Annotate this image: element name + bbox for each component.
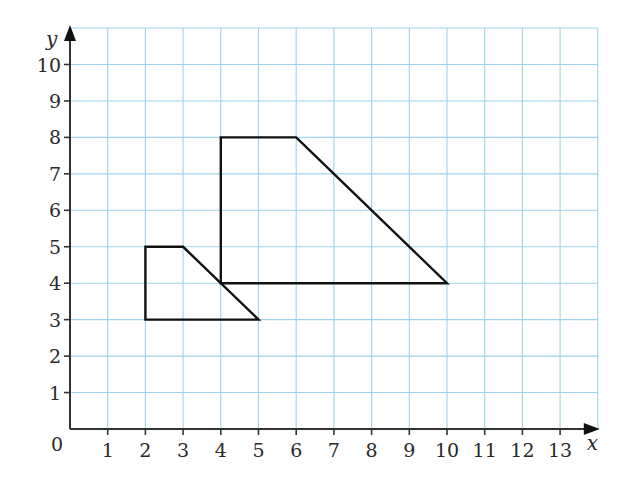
axes: [64, 25, 600, 435]
x-tick-label: 3: [177, 439, 189, 461]
x-tick-label: 9: [403, 439, 415, 461]
y-tick-label: 7: [49, 163, 61, 185]
y-tick-label: 4: [49, 272, 61, 294]
y-tick-label: 10: [37, 54, 61, 76]
coordinate-grid-diagram: 12345678910111213123456789100xy: [0, 0, 628, 487]
x-tick-label: 12: [510, 439, 534, 461]
y-tick-label: 1: [49, 382, 61, 404]
y-axis-label: y: [45, 27, 58, 51]
tick-labels: 12345678910111213123456789100xy: [37, 27, 598, 461]
y-tick-label: 8: [49, 126, 61, 148]
x-tick-label: 7: [328, 439, 340, 461]
y-tick-label: 6: [49, 199, 61, 221]
y-tick-label: 5: [49, 236, 61, 258]
y-tick-label: 3: [49, 309, 61, 331]
y-tick-label: 2: [49, 345, 61, 367]
x-tick-label: 13: [548, 439, 572, 461]
origin-label: 0: [51, 433, 63, 455]
x-axis-label: x: [587, 431, 598, 455]
x-tick-label: 10: [435, 439, 459, 461]
x-tick-label: 2: [139, 439, 151, 461]
grid-lines: [70, 28, 598, 429]
x-tick-label: 6: [290, 439, 302, 461]
x-tick-label: 1: [102, 439, 114, 461]
y-axis-arrow-icon: [64, 25, 76, 41]
x-tick-label: 4: [215, 439, 227, 461]
tick-marks: [64, 65, 560, 436]
x-tick-label: 5: [252, 439, 264, 461]
x-tick-label: 11: [473, 439, 497, 461]
x-tick-label: 8: [366, 439, 378, 461]
y-tick-label: 9: [49, 90, 61, 112]
